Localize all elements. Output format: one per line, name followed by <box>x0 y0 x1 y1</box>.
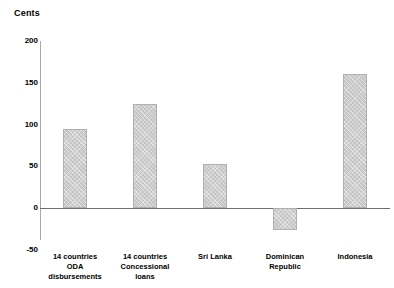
y-tick: 50 <box>0 162 38 170</box>
y-axis-line <box>40 41 41 240</box>
zero-baseline <box>40 208 390 209</box>
y-tick-label: 150 <box>2 79 38 87</box>
bar-chart: Cents 200150100500-50 14 countries ODA d… <box>0 0 394 288</box>
x-axis-label: Sri Lanka <box>180 252 250 262</box>
y-tick-label: 100 <box>2 121 38 129</box>
y-tick-label: 0 <box>2 204 38 212</box>
y-tick-label: 50 <box>2 162 38 170</box>
y-tick: 150 <box>0 79 38 87</box>
y-tick-label: 200 <box>2 37 38 45</box>
plot-area: 200150100500-50 14 countries ODA disburs… <box>0 0 394 288</box>
y-tick: 200 <box>0 37 38 45</box>
y-tick: 100 <box>0 121 38 129</box>
y-tick-label: -50 <box>2 246 38 254</box>
bar <box>343 74 367 208</box>
x-axis-label: 14 countries Concessional loans <box>110 252 180 282</box>
y-tick: -50 <box>0 246 38 254</box>
x-axis-label: 14 countries ODA disbursements <box>40 252 110 282</box>
y-tick: 0 <box>0 204 38 212</box>
bar <box>133 104 157 208</box>
bar <box>63 129 87 208</box>
x-axis-label: Indonesia <box>320 252 390 262</box>
bar <box>203 164 227 208</box>
bar <box>273 208 297 230</box>
x-axis-label: Dominican Republic <box>250 252 320 272</box>
